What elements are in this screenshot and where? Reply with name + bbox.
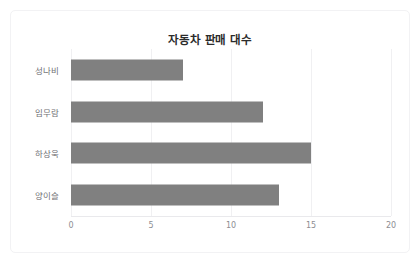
bar[interactable]	[71, 101, 263, 122]
bar-row: 임무람	[71, 91, 391, 133]
x-axis-line	[71, 216, 391, 217]
bar-row: 성나비	[71, 49, 391, 91]
bar[interactable]	[71, 59, 183, 80]
bar-row: 하상욱	[71, 133, 391, 175]
bar[interactable]	[71, 185, 279, 206]
x-tick-label: 20	[386, 221, 396, 230]
chart-title: 자동차 판매 대수	[11, 31, 409, 47]
gridline	[391, 49, 392, 216]
bar-row: 양이슬	[71, 174, 391, 216]
category-label: 임무람	[35, 106, 59, 118]
category-label: 하상욱	[35, 147, 59, 159]
x-tick-label: 10	[226, 221, 236, 230]
category-label: 성나비	[35, 64, 59, 76]
x-tick-label: 5	[148, 221, 153, 230]
plot-area: 성나비임무람하상욱양이슬	[71, 49, 391, 216]
x-tick-label: 15	[306, 221, 316, 230]
x-tick-label: 0	[68, 221, 73, 230]
category-label: 양이슬	[35, 189, 59, 201]
chart-card: 자동차 판매 대수 성나비임무람하상욱양이슬 05101520	[10, 10, 410, 253]
bar[interactable]	[71, 143, 311, 164]
